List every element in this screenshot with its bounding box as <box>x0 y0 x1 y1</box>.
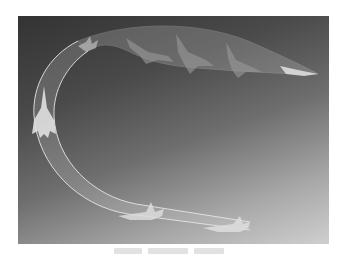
figure-caption <box>0 246 343 256</box>
caption-text-fragment <box>148 248 188 254</box>
maneuver-illustration <box>18 16 329 244</box>
maneuver-diagram <box>18 16 329 244</box>
caption-text-fragment <box>194 248 224 254</box>
caption-text-fragment <box>114 248 142 254</box>
